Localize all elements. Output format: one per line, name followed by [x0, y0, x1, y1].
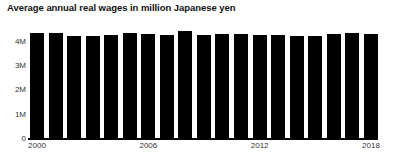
bar — [234, 34, 248, 138]
y-tick-label: 1M — [15, 109, 26, 118]
bar — [178, 31, 192, 138]
y-tick-label: 4M — [15, 36, 26, 45]
bar — [104, 35, 118, 138]
chart-title: Average annual real wages in million Jap… — [7, 2, 235, 13]
y-tick-label: 3M — [15, 60, 26, 69]
x-tick-label: 2018 — [362, 141, 380, 150]
bar — [327, 34, 341, 138]
bar — [290, 36, 304, 138]
bar — [215, 34, 229, 138]
bar — [308, 36, 322, 138]
plot-area — [30, 26, 378, 138]
x-axis-line — [28, 138, 378, 140]
x-tick-label: 2012 — [251, 141, 269, 150]
bar — [86, 36, 100, 139]
bar — [345, 33, 359, 138]
bar — [364, 34, 378, 138]
bars-layer — [30, 26, 378, 138]
bar — [123, 33, 137, 138]
bar — [253, 35, 267, 138]
x-tick-label: 2006 — [139, 141, 157, 150]
bar — [197, 35, 211, 138]
bar — [271, 35, 285, 138]
bar — [141, 34, 155, 138]
bar-chart: Average annual real wages in million Jap… — [0, 0, 394, 166]
x-axis: 2000200620122018 — [30, 141, 378, 155]
bar — [49, 33, 63, 138]
x-tick-label: 2000 — [28, 141, 46, 150]
y-axis: 01M2M3M4M — [0, 26, 26, 138]
y-tick-label: 0 — [22, 134, 26, 143]
bar — [160, 35, 174, 138]
bar — [30, 33, 44, 138]
bar — [67, 36, 81, 138]
y-tick-label: 2M — [15, 85, 26, 94]
